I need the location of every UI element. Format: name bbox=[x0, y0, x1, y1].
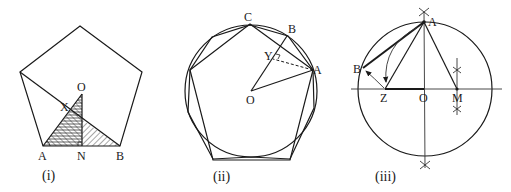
figure-iii: A B Z O M (iii) bbox=[351, 8, 502, 185]
vertical-axis bbox=[424, 12, 425, 168]
label-o: O bbox=[419, 91, 428, 105]
caption-ii: (ii) bbox=[213, 169, 230, 185]
label-a: A bbox=[38, 149, 47, 163]
label-o: O bbox=[77, 80, 86, 94]
caption-i: (i) bbox=[42, 168, 56, 184]
label-a: A bbox=[428, 15, 437, 29]
label-b: B bbox=[116, 149, 124, 163]
radius-ob bbox=[251, 36, 287, 91]
label-b: B bbox=[288, 22, 296, 36]
arc-a-to-z bbox=[386, 27, 418, 82]
dashed-ay bbox=[273, 59, 313, 70]
diagram-canvas: O X A N B (i) C B Y A O (ii) bbox=[0, 0, 511, 192]
label-n: N bbox=[77, 149, 86, 163]
label-b: B bbox=[353, 62, 361, 76]
label-m: M bbox=[452, 91, 463, 105]
radius-oa bbox=[251, 70, 313, 91]
label-a: A bbox=[313, 63, 322, 77]
caption-iii: (iii) bbox=[375, 169, 396, 185]
label-c: C bbox=[244, 10, 252, 24]
label-x: X bbox=[60, 100, 69, 114]
point-a bbox=[422, 20, 426, 24]
label-o: O bbox=[246, 93, 255, 107]
right-angle-mark-y bbox=[276, 54, 280, 59]
arc-z-to-b bbox=[366, 71, 384, 88]
label-z: Z bbox=[380, 91, 387, 105]
label-y: Y bbox=[264, 49, 273, 63]
figure-i: O X A N B (i) bbox=[20, 26, 142, 184]
line-am bbox=[424, 22, 457, 89]
figure-ii: C B Y A O (ii) bbox=[185, 10, 322, 185]
